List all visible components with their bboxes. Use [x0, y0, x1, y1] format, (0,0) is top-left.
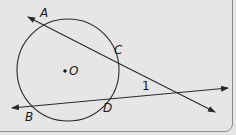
diagram-frame: A C O B D 1	[0, 0, 236, 135]
secant-bd-right-ray	[120, 88, 228, 98]
label-b: B	[25, 110, 33, 124]
label-o: O	[69, 64, 78, 78]
center-point-o	[63, 69, 67, 73]
geometry-diagram: A C O B D 1	[0, 0, 236, 135]
secant-ac-lower-ray	[120, 64, 215, 112]
angle-1-label: 1	[142, 79, 150, 93]
label-c: C	[114, 43, 123, 57]
label-d: D	[103, 101, 112, 115]
label-a: A	[39, 6, 48, 20]
secant-ac-upper-ray	[28, 17, 120, 64]
